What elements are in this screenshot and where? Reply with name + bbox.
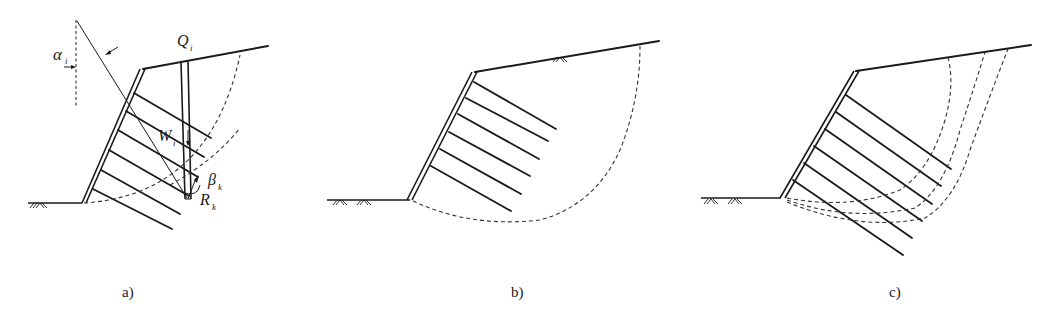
anchor bbox=[109, 150, 189, 196]
retaining-wall-b bbox=[407, 72, 477, 200]
ground-hatch-icon bbox=[30, 203, 47, 208]
anchor bbox=[474, 82, 556, 129]
caption-c: c) bbox=[889, 284, 901, 301]
slip-surface-c-2 bbox=[787, 52, 985, 213]
ground-hatch-icon bbox=[333, 200, 371, 205]
anchor bbox=[101, 170, 180, 214]
normal-line-a bbox=[77, 21, 187, 198]
slip-surface-c-1 bbox=[787, 57, 951, 203]
anchors-b bbox=[431, 82, 556, 211]
anchored-slope-figure: α i Q i W i β k R k bbox=[0, 0, 1048, 329]
label-beta-sub: k bbox=[218, 182, 223, 192]
label-Q-sub: i bbox=[190, 43, 193, 53]
anchors-a bbox=[93, 93, 211, 229]
slice-strip-a bbox=[181, 61, 191, 199]
panel-c bbox=[701, 45, 1031, 255]
ground-hatch-icon bbox=[704, 199, 742, 204]
label-Q: Q bbox=[177, 32, 189, 49]
anchor bbox=[440, 149, 521, 194]
slope-crest-b bbox=[475, 41, 659, 72]
label-alpha-sub: i bbox=[65, 56, 68, 66]
label-R: R bbox=[199, 191, 210, 208]
label-alpha: α bbox=[53, 45, 63, 64]
slope-crest-a bbox=[143, 46, 268, 69]
slip-surface-b bbox=[413, 46, 640, 222]
anchor bbox=[846, 95, 951, 169]
angle-arrow-icon bbox=[64, 47, 118, 69]
anchor bbox=[431, 166, 511, 211]
label-beta: β bbox=[207, 171, 216, 189]
anchor bbox=[836, 112, 941, 186]
retaining-wall-a bbox=[82, 69, 145, 203]
label-W: W bbox=[158, 127, 173, 144]
caption-a: a) bbox=[122, 284, 134, 301]
panel-a: α i Q i W i β k R k bbox=[28, 20, 268, 229]
anchor bbox=[93, 189, 172, 229]
slip-surface-a-inner bbox=[170, 128, 240, 185]
panel-b bbox=[327, 41, 659, 222]
caption-b: b) bbox=[511, 284, 524, 301]
anchor bbox=[793, 180, 903, 255]
anchors-c bbox=[793, 95, 951, 255]
slip-surface-c-3 bbox=[787, 49, 1008, 222]
label-R-sub: k bbox=[212, 202, 217, 212]
anchor bbox=[449, 132, 530, 176]
anchor bbox=[825, 129, 932, 204]
retaining-wall-c bbox=[780, 71, 859, 198]
anchor bbox=[458, 114, 539, 159]
anchor bbox=[466, 98, 548, 141]
